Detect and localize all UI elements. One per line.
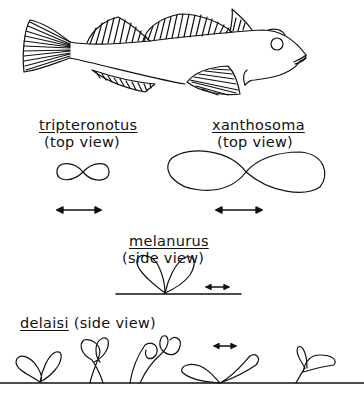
species-label-melanurus: melanurus [129,233,209,249]
tripteronotus-loop-pattern [57,164,109,181]
double-headed-arrow [206,285,229,290]
double-headed-arrow [57,207,101,213]
fish-mouth [294,55,306,64]
fish-drawing [23,9,306,95]
tail-fin [23,20,70,72]
fish-body [70,30,306,85]
view-label-tripteronotus: (top view) [44,134,120,150]
double-headed-arrow [214,344,236,349]
pectoral-fin [187,66,240,95]
view-label-xanthosoma: (top view) [217,134,293,150]
species-label-tripteronotus: tripteronotus [39,117,137,133]
view-label-delaisi: (side view) [74,315,156,331]
species-label-delaisi: delaisi [20,315,69,331]
anal-fin [92,70,155,92]
delaisi-loop-patterns [0,336,364,383]
dorsal-fin-spiny [230,9,252,32]
xanthosoma-loop-pattern [168,151,325,192]
view-label-melanurus: (side view) [122,250,204,266]
figure-canvas [0,0,364,400]
double-headed-arrow [216,207,262,213]
dorsal-fin-1 [87,17,150,44]
delaisi-heading: delaisi (side view) [20,315,156,331]
fish-eye [271,38,283,50]
species-label-xanthosoma: xanthosoma [212,117,305,133]
